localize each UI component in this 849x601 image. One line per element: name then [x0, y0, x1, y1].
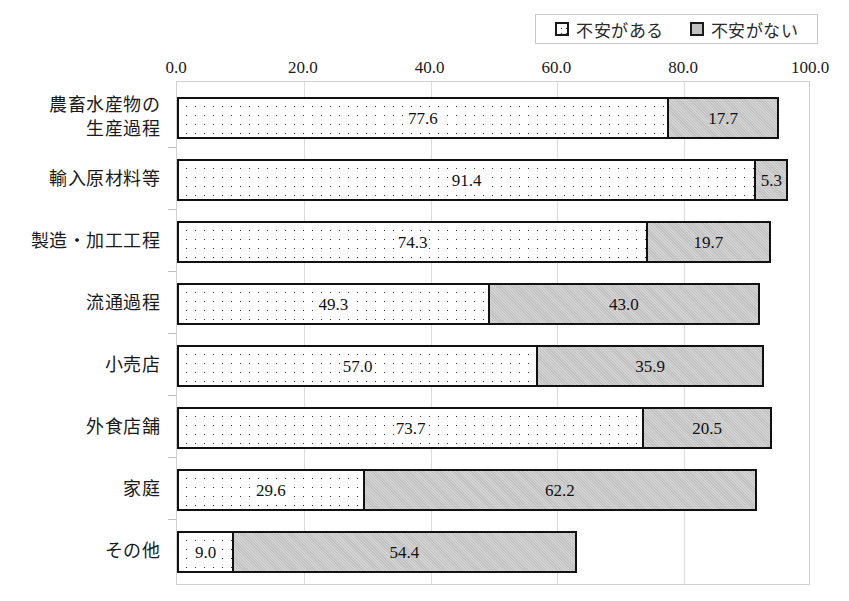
- bar-value-label: 54.4: [389, 544, 421, 561]
- bar-segment-not-anxious[interactable]: 20.5: [642, 407, 772, 449]
- y-axis-tick: [168, 457, 176, 458]
- bar-value-label: 29.6: [255, 482, 287, 499]
- stacked-bar[interactable]: 29.662.2: [177, 469, 757, 511]
- bar-value-label: 20.5: [691, 420, 723, 437]
- y-category-label: 外食店舗: [0, 415, 160, 439]
- bar-value-label: 77.6: [407, 110, 439, 127]
- bar-segment-anxious[interactable]: 73.7: [177, 407, 644, 449]
- bar-value-label: 73.7: [395, 420, 427, 437]
- dotted-white-square-icon: [555, 22, 569, 36]
- y-category-label: 農畜水産物の 生産過程: [0, 93, 160, 142]
- legend-label-anxious: 不安がある: [576, 17, 664, 42]
- bar-row: 29.662.2: [177, 469, 809, 511]
- x-tick-label: 40.0: [415, 58, 445, 78]
- bar-row: 74.319.7: [177, 221, 809, 263]
- y-axis-tick: [168, 519, 176, 520]
- bar-segment-anxious[interactable]: 9.0: [177, 531, 234, 573]
- stacked-bar[interactable]: 74.319.7: [177, 221, 771, 263]
- bar-segment-anxious[interactable]: 49.3: [177, 283, 490, 325]
- y-category-label: 製造・加工工程: [0, 229, 160, 253]
- bar-value-label: 17.7: [707, 110, 739, 127]
- plot-area: 77.617.791.45.374.319.749.343.057.035.97…: [176, 81, 810, 585]
- stacked-bar-chart: 不安がある 不安がない 0.020.040.060.080.0100.0 農畜水…: [0, 0, 849, 601]
- bar-segment-anxious[interactable]: 77.6: [177, 97, 669, 139]
- y-category-label: その他: [0, 539, 160, 563]
- bar-row: 77.617.7: [177, 97, 809, 139]
- stacked-bar[interactable]: 73.720.5: [177, 407, 772, 449]
- bar-value-label: 9.0: [194, 544, 217, 561]
- bar-segment-not-anxious[interactable]: 43.0: [488, 283, 761, 325]
- stacked-bar[interactable]: 9.054.4: [177, 531, 577, 573]
- chart-legend: 不安がある 不安がない: [535, 14, 818, 44]
- stacked-bar[interactable]: 49.343.0: [177, 283, 760, 325]
- bar-value-label: 91.4: [451, 172, 483, 189]
- bar-segment-anxious[interactable]: 29.6: [177, 469, 365, 511]
- bar-value-label: 57.0: [342, 358, 374, 375]
- bar-segment-not-anxious[interactable]: 19.7: [646, 221, 771, 263]
- y-category-label: 家庭: [0, 477, 160, 501]
- bar-value-label: 62.2: [544, 482, 576, 499]
- stacked-bar[interactable]: 77.617.7: [177, 97, 779, 139]
- y-axis-tick: [168, 147, 176, 148]
- bar-segment-anxious[interactable]: 91.4: [177, 159, 756, 201]
- bar-row: 73.720.5: [177, 407, 809, 449]
- bar-value-label: 74.3: [397, 234, 429, 251]
- stacked-bar[interactable]: 91.45.3: [177, 159, 788, 201]
- bar-value-label: 5.3: [760, 172, 783, 189]
- gray-square-icon: [690, 22, 704, 36]
- x-tick-label: 80.0: [668, 58, 698, 78]
- y-category-label: 輸入原材料等: [0, 167, 160, 191]
- bar-row: 49.343.0: [177, 283, 809, 325]
- bar-value-label: 35.9: [634, 358, 666, 375]
- y-category-label: 流通過程: [0, 291, 160, 315]
- bar-value-label: 49.3: [317, 296, 349, 313]
- bar-segment-not-anxious[interactable]: 17.7: [667, 97, 779, 139]
- bar-row: 57.035.9: [177, 345, 809, 387]
- bar-segment-anxious[interactable]: 57.0: [177, 345, 538, 387]
- bar-segment-not-anxious[interactable]: 62.2: [363, 469, 757, 511]
- stacked-bar[interactable]: 57.035.9: [177, 345, 764, 387]
- legend-item-anxious: 不安がある: [555, 17, 664, 42]
- bar-segment-not-anxious[interactable]: 54.4: [232, 531, 577, 573]
- bar-value-label: 19.7: [693, 234, 725, 251]
- y-axis-tick: [168, 395, 176, 396]
- y-category-label: 小売店: [0, 353, 160, 377]
- bar-row: 9.054.4: [177, 531, 809, 573]
- x-tick-label: 60.0: [542, 58, 572, 78]
- legend-item-not-anxious: 不安がない: [690, 17, 799, 42]
- bar-row: 91.45.3: [177, 159, 809, 201]
- y-axis-tick: [168, 271, 176, 272]
- x-tick-label: 0.0: [165, 58, 186, 78]
- bar-segment-not-anxious[interactable]: 5.3: [754, 159, 788, 201]
- bar-segment-not-anxious[interactable]: 35.9: [536, 345, 764, 387]
- bar-segment-anxious[interactable]: 74.3: [177, 221, 648, 263]
- x-tick-label: 100.0: [791, 58, 829, 78]
- x-tick-label: 20.0: [288, 58, 318, 78]
- bar-value-label: 43.0: [608, 296, 640, 313]
- legend-label-not-anxious: 不安がない: [711, 17, 799, 42]
- y-axis-tick: [168, 333, 176, 334]
- y-axis-tick: [168, 209, 176, 210]
